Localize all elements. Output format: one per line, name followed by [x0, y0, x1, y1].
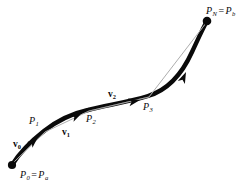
label-p3: P3 — [143, 102, 153, 113]
curve-diagram-canvas — [0, 0, 251, 186]
label-p3-subscript: 3 — [149, 106, 153, 113]
label-p1: P1 — [29, 116, 39, 127]
label-v2-subscript: 2 — [113, 93, 116, 100]
label-v2: v2 — [108, 90, 116, 100]
start-point-dot — [8, 161, 16, 169]
label-v0: v0 — [13, 140, 21, 150]
label-pa-subscript: a — [45, 174, 49, 181]
label-p2-subscript: 2 — [92, 118, 96, 125]
label-v1: v1 — [62, 128, 70, 138]
label-pb-subscript: b — [232, 10, 236, 17]
label-p1-subscript: 1 — [35, 120, 39, 127]
label-pa-base: P — [38, 169, 44, 180]
label-p0-equals-pa: P0=Pa — [20, 170, 48, 181]
label-p2: P2 — [86, 114, 96, 125]
label-pb-base: P — [225, 5, 231, 16]
label-v0-subscript: 0 — [18, 143, 21, 150]
figure-container: P0=Pa P1 P2 P3 PN=Pb v0 v1 v2 — [0, 0, 251, 186]
label-v1-subscript: 1 — [67, 131, 70, 138]
label-pn-equals-pb: PN=Pb — [206, 6, 236, 17]
end-point-dot — [203, 17, 212, 26]
